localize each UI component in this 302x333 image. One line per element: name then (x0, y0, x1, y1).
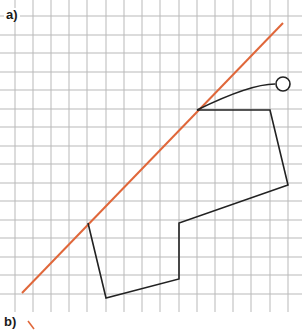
part-b-label: b) (2, 315, 18, 329)
part-a-label: a) (4, 8, 20, 22)
reflected-shape-outline (88, 110, 288, 298)
shape-circle (276, 77, 290, 91)
grid-diagram (0, 0, 302, 333)
part-b-line-mark (28, 321, 34, 329)
shape-curve (197, 84, 275, 110)
mirror-line (22, 23, 283, 293)
grid-lines (0, 0, 302, 312)
